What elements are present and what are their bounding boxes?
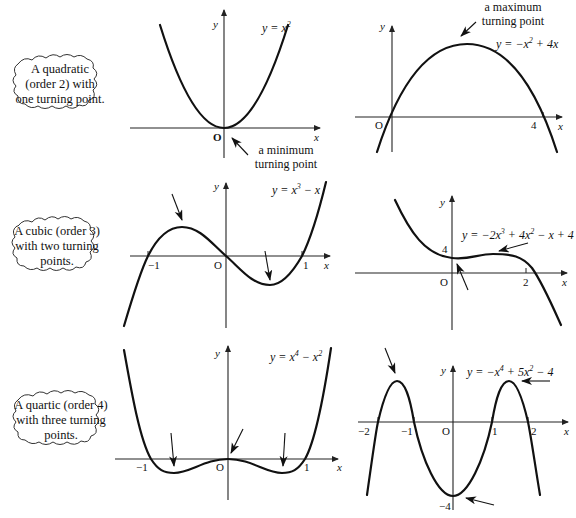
y-axis-label: y: [440, 196, 445, 208]
min-pointer-arrow: [265, 251, 270, 280]
tick-label-2: 2: [531, 425, 537, 437]
tick-label-4: 4: [442, 243, 448, 255]
graph-cubic-x3-minus-x: [124, 182, 330, 328]
origin-label: O: [213, 131, 222, 143]
max-pointer-arrow: [499, 243, 528, 251]
x-axis-label: x: [558, 120, 563, 132]
equation-label: y = x4 − x2: [270, 349, 322, 365]
origin-label: O: [442, 425, 450, 437]
graph-cubic-stylized: [355, 196, 567, 330]
cloud-cubic-text: A cubic (order 3) with two turning point…: [12, 224, 102, 269]
origin-label: O: [216, 461, 224, 473]
y-axis-label: y: [215, 347, 220, 359]
cloud-quadratic-text: A quadratic (order 2) with one turning p…: [14, 62, 106, 107]
tick-label-2: 2: [523, 276, 529, 288]
graph-quadratic-min: [130, 10, 320, 158]
x-axis-label: x: [314, 131, 319, 143]
origin-label: O: [214, 259, 222, 271]
equation-label: y = x2: [262, 20, 291, 36]
x-axis-label: x: [337, 461, 342, 473]
minimum-note: a minimum turning point: [246, 143, 326, 171]
left-min-pointer-arrow: [171, 433, 174, 466]
equation-label: y = x3 − x: [272, 182, 320, 198]
tick-label-1: 1: [492, 425, 498, 437]
min-pointer-arrow: [466, 498, 494, 505]
x-axis-label: x: [562, 276, 567, 288]
graph-quartic-x4-minus-x2: [115, 346, 338, 500]
tick-label-neg1: −1: [401, 425, 413, 437]
tick-label-4: 4: [531, 119, 537, 131]
y-axis-label: y: [380, 20, 385, 32]
x-axis-label: x: [324, 259, 329, 271]
curve-neg-2x3-plus-4x2-minus-x-plus-4: [395, 200, 561, 325]
equation-label: y = −x2 + 4x: [496, 36, 558, 52]
y-axis-label: y: [214, 180, 219, 192]
origin-label: O: [375, 119, 383, 131]
left-max-pointer-arrow: [385, 348, 395, 373]
max-pointer-arrow: [231, 429, 243, 453]
tick-label-neg4: −4: [439, 500, 451, 512]
y-axis-label: y: [441, 364, 446, 376]
equation-label: y = −x4 + 5x2 − 4: [467, 364, 553, 380]
x-axis-label: x: [564, 425, 569, 437]
tick-label-1: 1: [304, 461, 310, 473]
maximum-note: a maximum turning point: [468, 0, 558, 28]
min-pointer-arrow: [457, 264, 468, 290]
right-min-pointer-arrow: [283, 433, 285, 466]
tick-label-neg1: −1: [148, 259, 160, 271]
y-axis-label: y: [213, 18, 218, 30]
tick-label-1: 1: [303, 259, 309, 271]
equation-label: y = −2x3 + 4x2 − x + 4: [462, 227, 574, 243]
cloud-quartic-text: A quartic (order 4) with three turning p…: [12, 398, 110, 443]
origin-label: O: [440, 276, 448, 288]
tick-label-neg2: −2: [358, 425, 370, 437]
tick-label-neg1: −1: [136, 461, 148, 473]
curve-neg-x-squared-plus-4x: [377, 44, 557, 152]
max-pointer-arrow: [172, 194, 182, 220]
curve-x-cubed-minus-x: [124, 182, 326, 326]
